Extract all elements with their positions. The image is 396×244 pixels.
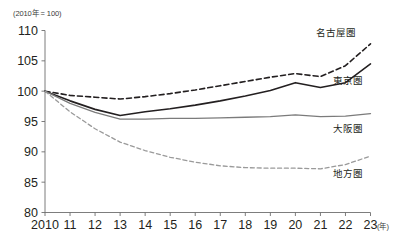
series-label-1: 名古屋圏 [316, 27, 356, 38]
x-tick-label: 15 [163, 218, 177, 232]
x-tick-label: 21 [313, 218, 327, 232]
series-line-3 [45, 91, 371, 119]
series-labels: 名古屋圏東京圏大阪圏地方圏 [316, 27, 363, 179]
y-tick-label: 105 [17, 54, 38, 68]
y-tick-label: 100 [17, 85, 38, 99]
series-label-4: 地方圏 [333, 168, 363, 179]
y-tick-label: 110 [18, 24, 38, 38]
x-tick-label: 20 [288, 218, 302, 232]
y-tick-label: 90 [24, 145, 38, 159]
x-tick-label: 13 [113, 218, 127, 232]
x-tick-label: 19 [263, 218, 277, 232]
series-line-1 [45, 44, 371, 99]
series-label-2: 東京圏 [333, 75, 363, 86]
x-tick-label: 23 [364, 218, 378, 232]
x-tick-label: 2010 [31, 218, 59, 232]
x-axis: 201011121314151617181920212223 [31, 213, 377, 233]
series-lines [45, 44, 371, 169]
x-tick-label: 14 [138, 218, 152, 232]
series-line-2 [45, 64, 371, 116]
price-index-line-chart: (2010年 = 100) 80859095100105110 20101112… [0, 0, 396, 244]
x-tick-label: 18 [238, 218, 252, 232]
x-axis-unit-label: (年) [377, 221, 389, 231]
x-tick-label: 11 [64, 218, 77, 232]
x-tick-label: 22 [339, 218, 353, 232]
y-tick-label: 85 [24, 176, 38, 190]
x-tick-label: 16 [188, 218, 202, 232]
x-tick-label: 17 [213, 218, 227, 232]
y-tick-label: 95 [24, 115, 38, 129]
chart-canvas: 80859095100105110 2010111213141516171819… [0, 0, 396, 244]
y-axis: 80859095100105110 [17, 24, 45, 220]
series-label-3: 大阪圏 [333, 123, 363, 134]
x-tick-label: 12 [88, 218, 102, 232]
